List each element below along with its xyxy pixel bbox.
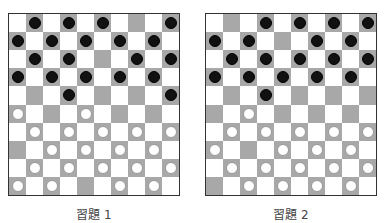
white-piece xyxy=(226,162,238,174)
light-square xyxy=(359,177,376,195)
light-square xyxy=(162,105,179,123)
dark-square xyxy=(111,32,128,50)
light-square xyxy=(257,68,274,86)
dark-square xyxy=(94,86,111,104)
black-piece xyxy=(114,71,126,83)
black-piece xyxy=(328,17,340,29)
dark-square xyxy=(145,141,162,159)
white-piece xyxy=(362,162,374,174)
white-piece xyxy=(114,180,126,192)
light-square xyxy=(206,86,223,104)
white-piece xyxy=(97,162,109,174)
light-square xyxy=(257,177,274,195)
dark-square xyxy=(9,32,26,50)
white-piece xyxy=(148,144,160,156)
dark-square xyxy=(77,177,94,195)
black-piece xyxy=(294,53,306,65)
dark-square xyxy=(342,68,359,86)
light-square xyxy=(77,159,94,177)
light-square xyxy=(240,86,257,104)
black-piece xyxy=(80,35,92,47)
white-piece xyxy=(260,162,272,174)
light-square xyxy=(145,14,162,32)
light-square xyxy=(359,141,376,159)
white-piece xyxy=(260,126,272,138)
dark-square xyxy=(26,159,43,177)
checkers-board-2 xyxy=(205,13,377,196)
light-square xyxy=(94,141,111,159)
white-piece xyxy=(12,108,24,120)
dark-square xyxy=(43,141,60,159)
white-piece xyxy=(114,144,126,156)
white-piece xyxy=(345,180,357,192)
light-square xyxy=(240,159,257,177)
white-piece xyxy=(63,126,75,138)
light-square xyxy=(223,105,240,123)
dark-square xyxy=(240,141,257,159)
light-square xyxy=(145,123,162,141)
light-square xyxy=(9,14,26,32)
white-piece xyxy=(148,180,160,192)
dark-square xyxy=(342,141,359,159)
black-piece xyxy=(345,71,357,83)
light-square xyxy=(325,177,342,195)
white-piece xyxy=(243,180,255,192)
dark-square xyxy=(325,159,342,177)
light-square xyxy=(240,50,257,68)
dark-square xyxy=(240,105,257,123)
dark-square xyxy=(257,14,274,32)
dark-square xyxy=(43,177,60,195)
black-piece xyxy=(63,17,75,29)
light-square xyxy=(111,50,128,68)
black-piece xyxy=(12,71,24,83)
black-piece xyxy=(63,89,75,101)
white-piece xyxy=(29,162,41,174)
light-square xyxy=(291,68,308,86)
light-square xyxy=(26,177,43,195)
dark-square xyxy=(359,159,376,177)
black-piece xyxy=(362,17,374,29)
white-piece xyxy=(243,108,255,120)
dark-square xyxy=(308,141,325,159)
dark-square xyxy=(60,159,77,177)
light-square xyxy=(43,50,60,68)
dark-square xyxy=(359,14,376,32)
light-square xyxy=(274,123,291,141)
dark-square xyxy=(77,141,94,159)
dark-square xyxy=(9,68,26,86)
dark-square xyxy=(223,123,240,141)
light-square xyxy=(128,177,145,195)
light-square xyxy=(77,50,94,68)
light-square xyxy=(223,68,240,86)
white-piece xyxy=(165,162,177,174)
black-piece xyxy=(243,71,255,83)
dark-square xyxy=(274,141,291,159)
black-piece xyxy=(209,71,221,83)
light-square xyxy=(145,159,162,177)
light-square xyxy=(274,159,291,177)
white-piece xyxy=(165,126,177,138)
light-square xyxy=(291,32,308,50)
white-piece xyxy=(345,144,357,156)
light-square xyxy=(291,141,308,159)
dark-square xyxy=(111,105,128,123)
dark-square xyxy=(26,14,43,32)
dark-square xyxy=(111,141,128,159)
light-square xyxy=(223,141,240,159)
black-piece xyxy=(46,35,58,47)
light-square xyxy=(9,50,26,68)
light-square xyxy=(60,32,77,50)
dark-square xyxy=(60,123,77,141)
black-piece xyxy=(328,53,340,65)
dark-square xyxy=(162,14,179,32)
white-piece xyxy=(131,162,143,174)
light-square xyxy=(60,105,77,123)
dark-square xyxy=(257,86,274,104)
dark-square xyxy=(342,32,359,50)
dark-square xyxy=(291,159,308,177)
dark-square xyxy=(274,177,291,195)
light-square xyxy=(240,123,257,141)
dark-square xyxy=(26,123,43,141)
light-square xyxy=(26,141,43,159)
light-square xyxy=(325,32,342,50)
